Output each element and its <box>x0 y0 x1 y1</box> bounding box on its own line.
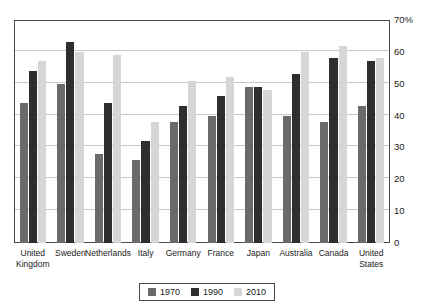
bar[interactable] <box>358 106 366 243</box>
chart-legend: 197019902010 <box>139 283 275 301</box>
y-axis-tick-label: 50 <box>394 79 405 89</box>
bar-group <box>277 20 315 243</box>
bar[interactable] <box>283 116 291 243</box>
bar[interactable] <box>226 77 234 243</box>
bar[interactable] <box>20 103 28 243</box>
bar[interactable] <box>57 84 65 243</box>
x-axis-category-labels: UnitedKingdomSwedenNetherlandsItalyGerma… <box>14 248 390 278</box>
bar[interactable] <box>104 103 112 243</box>
legend-item[interactable]: 1970 <box>148 287 180 297</box>
bar-groups <box>14 20 390 243</box>
bar[interactable] <box>170 122 178 243</box>
bar-group <box>315 20 353 243</box>
y-axis-tick-label: 0 <box>394 238 399 248</box>
bar[interactable] <box>151 122 159 243</box>
y-axis-tick-label: 20 <box>394 174 405 184</box>
bar-group <box>52 20 90 243</box>
bar[interactable] <box>38 61 46 243</box>
legend-swatch-icon <box>234 288 242 296</box>
bar-group <box>127 20 165 243</box>
y-axis-tick-label: 60 <box>394 47 405 57</box>
x-axis-category-label-line: United <box>346 248 396 259</box>
bar[interactable] <box>188 81 196 243</box>
legend-swatch-icon <box>191 288 199 296</box>
x-axis-category-label: UnitedStates <box>346 248 396 269</box>
legend-swatch-icon <box>148 288 156 296</box>
bar[interactable] <box>75 52 83 243</box>
bar[interactable] <box>208 116 216 243</box>
legend-label: 1970 <box>160 287 180 297</box>
bar[interactable] <box>376 58 384 243</box>
bar[interactable] <box>95 154 103 243</box>
bar[interactable] <box>245 87 253 243</box>
bar[interactable] <box>217 96 225 243</box>
bar-group <box>202 20 240 243</box>
bar[interactable] <box>66 42 74 243</box>
x-axis-category-label-line: Kingdom <box>8 259 58 270</box>
bar-group <box>352 20 390 243</box>
bar-group <box>89 20 127 243</box>
bar[interactable] <box>367 61 375 243</box>
bar[interactable] <box>254 87 262 243</box>
bar[interactable] <box>29 71 37 243</box>
y-axis-tick-label: 30 <box>394 142 405 152</box>
bar[interactable] <box>329 58 337 243</box>
bar[interactable] <box>132 160 140 243</box>
bar-group <box>14 20 52 243</box>
legend-label: 1990 <box>203 287 223 297</box>
bar-group <box>240 20 278 243</box>
chart-title-cutoff <box>14 0 314 3</box>
legend-item[interactable]: 2010 <box>234 287 266 297</box>
legend-label: 2010 <box>246 287 266 297</box>
y-axis-tick-label: 10 <box>394 206 405 216</box>
x-axis-category-label-line: States <box>346 259 396 270</box>
bar[interactable] <box>113 55 121 243</box>
y-axis-tick-label: 40 <box>394 111 405 121</box>
bar[interactable] <box>339 46 347 244</box>
bar[interactable] <box>263 90 271 243</box>
bar[interactable] <box>292 74 300 243</box>
bar-chart: 70%6050403020100 UnitedKingdomSwedenNeth… <box>0 0 430 306</box>
legend-item[interactable]: 1990 <box>191 287 223 297</box>
bar-group <box>164 20 202 243</box>
bar[interactable] <box>141 141 149 243</box>
bar[interactable] <box>301 52 309 243</box>
bar[interactable] <box>179 106 187 243</box>
bar[interactable] <box>320 122 328 243</box>
y-axis-tick-label: 70% <box>394 15 413 25</box>
